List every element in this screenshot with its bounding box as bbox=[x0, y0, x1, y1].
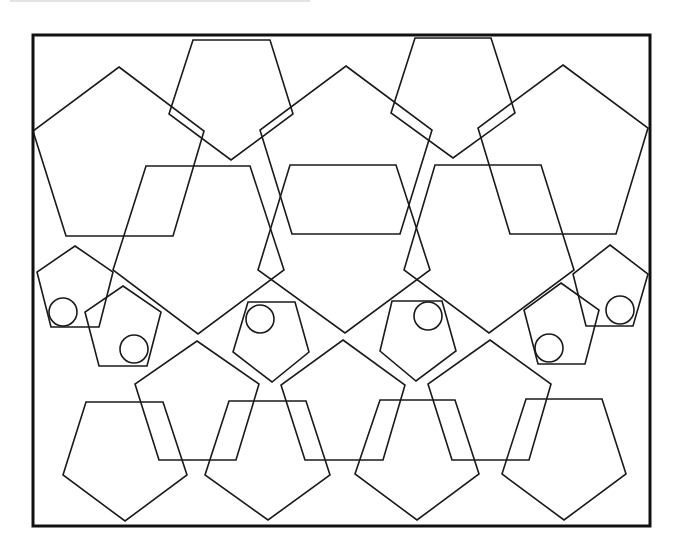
diagram-frame bbox=[33, 35, 650, 526]
small-pentagon-layer bbox=[37, 245, 648, 382]
pentagon-layer bbox=[33, 38, 648, 521]
pentagon-b2 bbox=[391, 38, 515, 158]
circle-s2 bbox=[120, 335, 148, 363]
circle-s1 bbox=[49, 298, 77, 326]
small-pentagon-s4 bbox=[380, 301, 456, 381]
circle-s3 bbox=[246, 305, 274, 333]
circle-s5 bbox=[606, 296, 634, 324]
pentagon-c2 bbox=[258, 165, 430, 333]
small-pentagon-group-s3 bbox=[233, 302, 309, 382]
circle-s6 bbox=[535, 334, 563, 362]
pentagon-c1 bbox=[113, 166, 284, 334]
small-pentagon-group-s5 bbox=[573, 245, 648, 326]
small-pentagon-group-s1 bbox=[37, 246, 113, 327]
small-pentagon-s1 bbox=[37, 246, 113, 327]
small-pentagon-group-s6 bbox=[524, 283, 599, 364]
pentagon-pattern-diagram bbox=[0, 0, 678, 550]
pentagon-c3 bbox=[404, 165, 574, 333]
pentagon-a1 bbox=[33, 67, 204, 236]
circle-s4 bbox=[414, 302, 442, 330]
pentagon-b1 bbox=[169, 40, 293, 160]
small-pentagon-s3 bbox=[233, 302, 309, 382]
small-pentagon-s5 bbox=[573, 245, 648, 326]
pentagon-a3 bbox=[478, 65, 648, 234]
small-pentagon-group-s4 bbox=[380, 301, 456, 381]
pentagon-e1 bbox=[63, 402, 187, 521]
